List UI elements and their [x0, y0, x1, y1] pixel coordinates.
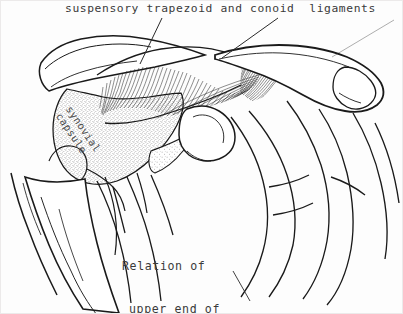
acromion: [39, 36, 205, 91]
caption-bottom-line-2: upper end of: [122, 302, 364, 314]
caption-top: suspensory trapezoid and conoid ligament…: [65, 2, 376, 16]
caption-bottom: Relation of upper end of humerus and cap…: [122, 231, 364, 314]
coracoid-process: [179, 106, 235, 161]
clavicle: [215, 45, 383, 112]
leader-right-faint: [332, 20, 394, 57]
anatomical-figure: suspensory trapezoid and conoid ligament…: [0, 0, 403, 314]
caption-bottom-line-1: Relation of: [122, 259, 364, 274]
